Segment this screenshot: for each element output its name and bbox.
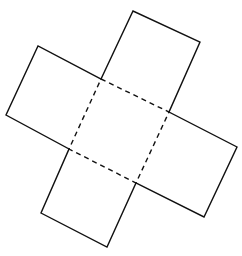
flap-right (136, 112, 237, 217)
center-square-dashed (69, 79, 169, 183)
flap-bottom (41, 149, 136, 247)
flap-left (6, 46, 101, 149)
flap-top (101, 11, 200, 112)
cube-net-diagram (0, 0, 242, 256)
